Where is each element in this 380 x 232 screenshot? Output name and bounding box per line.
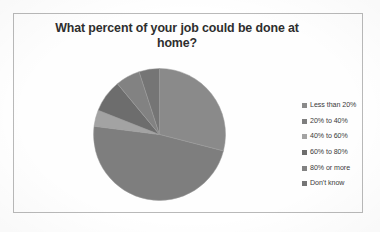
legend-swatch-icon: [302, 134, 307, 139]
legend-item[interactable]: 20% to 40%: [302, 114, 378, 130]
legend-item-label: Don't know: [310, 179, 344, 188]
chart-title-line-1: What percent of your job could be done a…: [32, 21, 322, 36]
legend-item-label: 40% to 60%: [310, 132, 348, 141]
legend-swatch-icon: [302, 166, 307, 171]
legend-item[interactable]: Less than 20%: [302, 98, 378, 114]
legend-item[interactable]: 60% to 80%: [302, 145, 378, 161]
chart-legend: Less than 20%20% to 40%40% to 60%60% to …: [302, 98, 378, 192]
legend-item[interactable]: 40% to 60%: [302, 129, 378, 145]
legend-swatch-icon: [302, 119, 307, 124]
legend-item-label: 20% to 40%: [310, 117, 348, 126]
legend-swatch-icon: [302, 181, 307, 186]
legend-swatch-icon: [302, 103, 307, 108]
chart-title-line-2: home?: [32, 36, 322, 51]
legend-item[interactable]: Don't know: [302, 176, 378, 192]
pie-chart: [93, 68, 226, 201]
chart-title: What percent of your job could be done a…: [32, 21, 322, 51]
legend-item-label: 80% or more: [310, 164, 350, 173]
pie-slices: [94, 69, 226, 201]
pie-chart-svg: [93, 68, 226, 201]
chart-frame: What percent of your job could be done a…: [13, 13, 363, 213]
legend-item-label: 60% to 80%: [310, 148, 348, 157]
legend-item-label: Less than 20%: [310, 101, 356, 110]
legend-swatch-icon: [302, 150, 307, 155]
legend-item[interactable]: 80% or more: [302, 160, 378, 176]
